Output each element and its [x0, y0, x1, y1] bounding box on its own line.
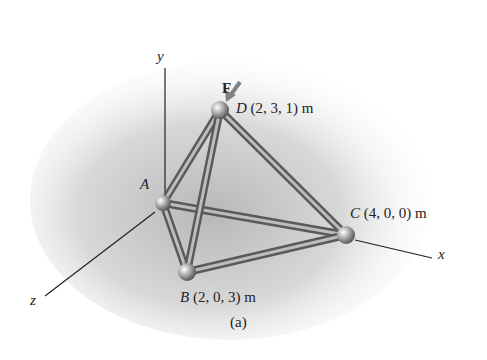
tetrahedron-truss-diagram	[0, 0, 487, 360]
node-b-label: B (2, 0, 3) m	[180, 289, 256, 306]
y-axis-label: y	[157, 48, 164, 65]
joint-a	[155, 195, 171, 211]
joint-d	[211, 101, 229, 119]
node-a-label: A	[140, 176, 149, 193]
force-label: F	[222, 80, 231, 97]
z-axis-label: z	[30, 292, 36, 309]
node-c-label: C (4, 0, 0) m	[350, 205, 427, 222]
node-d-label: D (2, 3, 1) m	[236, 100, 314, 117]
joint-b	[178, 263, 196, 281]
x-axis-label: x	[438, 246, 445, 263]
joint-c	[337, 226, 355, 244]
figure-caption: (a)	[230, 314, 247, 331]
